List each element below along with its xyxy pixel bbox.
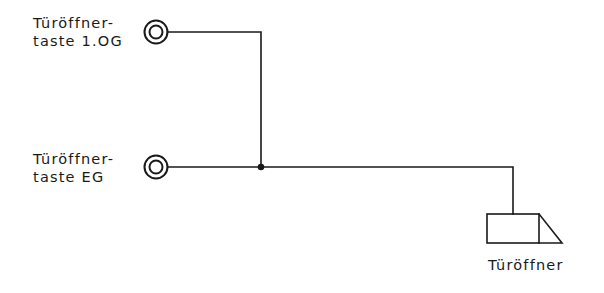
door-opener-icon bbox=[487, 214, 562, 243]
label-button-1og: Türöffner- taste 1.OG bbox=[33, 14, 123, 50]
label-button-1og-line2: taste 1.OG bbox=[33, 32, 123, 50]
push-button-eg-icon bbox=[145, 156, 168, 179]
label-door-opener-text: Türöffner bbox=[488, 256, 564, 274]
wire-1og bbox=[168, 32, 262, 167]
label-button-eg-line1: Türöffner- bbox=[33, 150, 114, 168]
wiring-diagram: Türöffner- taste 1.OG Türöffner- taste E… bbox=[0, 0, 604, 293]
push-button-1og-icon bbox=[145, 21, 168, 44]
label-button-eg: Türöffner- taste EG bbox=[33, 150, 114, 186]
label-button-eg-line2: taste EG bbox=[33, 168, 114, 186]
label-button-1og-line1: Türöffner- bbox=[33, 14, 123, 32]
wire-eg bbox=[168, 167, 514, 214]
label-door-opener: Türöffner bbox=[488, 256, 564, 274]
junction-dot bbox=[258, 164, 265, 171]
